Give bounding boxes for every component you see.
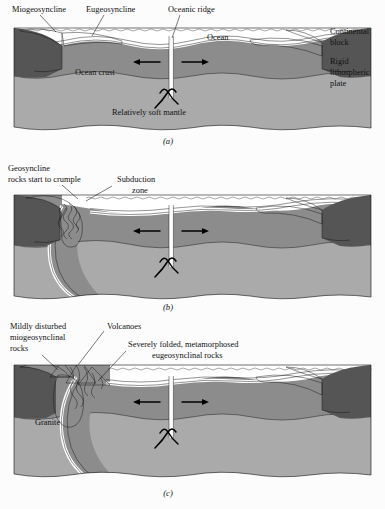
panel-c: Mildly disturbed miogeosynclinal rocks V… (0, 315, 385, 509)
panel-c-diagram: Mildly disturbed miogeosynclinal rocks V… (0, 315, 385, 509)
caption-c: (c) (163, 488, 173, 498)
label-geosyncline-1: Geosyncline (8, 164, 50, 173)
caption-b: (b) (163, 302, 173, 312)
label-continental-block-1: Continental (330, 27, 370, 36)
label-mildly-disturbed-1: Mildly disturbed (10, 322, 67, 331)
label-mildly-disturbed-2: miogeosynclinal (10, 333, 66, 342)
geology-figure: Miogeosyncline Eugeosyncline Oceanic rid… (0, 0, 385, 509)
label-volcanoes: Volcanoes (107, 322, 141, 331)
label-rigid-plate-3: plate (330, 79, 347, 88)
caption-a: (a) (163, 136, 173, 146)
label-geosyncline-2: rocks start to crumple (8, 175, 81, 184)
label-oceanic-ridge: Oceanic ridge (168, 5, 215, 14)
label-rigid-plate-2: lithospheric (330, 68, 370, 77)
label-eugeosyncline: Eugeosyncline (86, 5, 136, 14)
label-continental-block-2: block (330, 38, 349, 47)
label-severely-folded-2: eugeosynclinal rocks (152, 351, 222, 360)
label-subduction-2: zone (132, 186, 148, 195)
label-ocean-crust: Ocean crust (75, 68, 115, 77)
label-relatively-soft-mantle: Relatively soft mantle (112, 108, 186, 117)
panel-b-diagram: Geosyncline rocks start to crumple Subdu… (0, 160, 385, 315)
label-miogeosyncline: Miogeosyncline (12, 5, 66, 14)
panel-b: Geosyncline rocks start to crumple Subdu… (0, 160, 385, 315)
panel-a-diagram: Miogeosyncline Eugeosyncline Oceanic rid… (0, 0, 385, 160)
label-severely-folded-1: Severely folded, metamorphosed (128, 340, 239, 349)
soft-mantle-layer (0, 0, 385, 160)
label-subduction-1: Subduction (117, 175, 156, 184)
label-mildly-disturbed-3: rocks (10, 344, 28, 353)
label-granite: Granite (35, 418, 60, 427)
label-ocean: Ocean (207, 33, 229, 42)
label-rigid-plate-1: Rigid (330, 57, 349, 66)
panel-a: Miogeosyncline Eugeosyncline Oceanic rid… (0, 0, 385, 160)
